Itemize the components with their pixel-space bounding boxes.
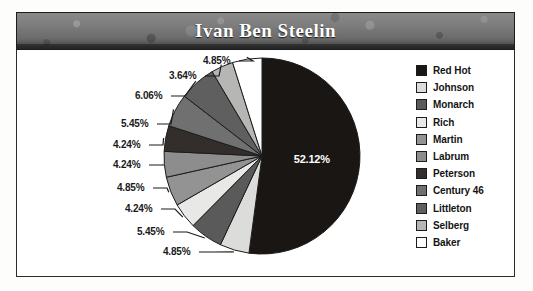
- legend-item[interactable]: Century 46: [416, 182, 516, 199]
- legend-item[interactable]: Peterson: [416, 165, 516, 182]
- pie-slice-value-label: 5.45%: [121, 118, 148, 129]
- legend-swatch-icon: [416, 185, 427, 196]
- pie-slice-value-label: 6.06%: [135, 90, 162, 101]
- legend-item[interactable]: Labrum: [416, 148, 516, 165]
- legend-item[interactable]: Red Hot: [416, 62, 516, 79]
- legend-swatch-icon: [416, 220, 427, 231]
- legend-swatch-icon: [416, 65, 427, 76]
- legend-item-label: Baker: [433, 237, 460, 248]
- chart-body: 52.12%4.85%5.45%4.24%4.85%4.24%4.24%5.45…: [16, 50, 515, 277]
- legend-item[interactable]: Johnson: [416, 79, 516, 96]
- screenshot-root: Ivan Ben Steelin 52.12%4.85%5.45%4.24%4.…: [0, 0, 533, 291]
- pie-chart-plot: 52.12%4.85%5.45%4.24%4.85%4.24%4.24%5.45…: [17, 50, 407, 277]
- legend-item-label: Rich: [433, 117, 454, 128]
- pie-value-labels: 52.12%4.85%5.45%4.24%4.85%4.24%4.24%5.45…: [17, 50, 407, 277]
- legend-item-label: Peterson: [433, 168, 475, 179]
- pie-slice-value-label: 4.85%: [163, 246, 190, 257]
- chart-legend: Red HotJohnsonMonarchRichMartinLabrumPet…: [416, 62, 516, 251]
- legend-swatch-icon: [416, 82, 427, 93]
- legend-swatch-icon: [416, 237, 427, 248]
- legend-item[interactable]: Littleton: [416, 200, 516, 217]
- legend-swatch-icon: [416, 99, 427, 110]
- legend-item-label: Littleton: [433, 203, 472, 214]
- legend-item[interactable]: Rich: [416, 114, 516, 131]
- legend-swatch-icon: [416, 117, 427, 128]
- legend-item-label: Martin: [433, 134, 462, 145]
- legend-item-label: Century 46: [433, 185, 484, 196]
- legend-swatch-icon: [416, 151, 427, 162]
- legend-item-label: Red Hot: [433, 65, 471, 76]
- legend-item[interactable]: Monarch: [416, 96, 516, 113]
- page-title: Ivan Ben Steelin: [195, 20, 336, 42]
- pie-slice-value-label: 5.45%: [137, 226, 164, 237]
- pie-slice-value-label: 4.85%: [117, 182, 144, 193]
- legend-item[interactable]: Baker: [416, 234, 516, 251]
- legend-swatch-icon: [416, 203, 427, 214]
- legend-item[interactable]: Selberg: [416, 217, 516, 234]
- legend-item-label: Labrum: [433, 151, 469, 162]
- pie-slice-value-label: 4.85%: [203, 55, 230, 66]
- legend-item-label: Johnson: [433, 82, 474, 93]
- legend-item-label: Monarch: [433, 99, 474, 110]
- chart-title-bar: Ivan Ben Steelin: [16, 12, 515, 50]
- legend-swatch-icon: [416, 134, 427, 145]
- legend-item[interactable]: Martin: [416, 131, 516, 148]
- pie-slice-value-label: 4.24%: [113, 139, 140, 150]
- legend-swatch-icon: [416, 168, 427, 179]
- pie-slice-value-label: 3.64%: [169, 70, 196, 81]
- pie-slice-value-label: 52.12%: [294, 153, 330, 165]
- pie-slice-value-label: 4.24%: [113, 159, 140, 170]
- legend-item-label: Selberg: [433, 220, 469, 231]
- pie-slice-value-label: 4.24%: [125, 203, 152, 214]
